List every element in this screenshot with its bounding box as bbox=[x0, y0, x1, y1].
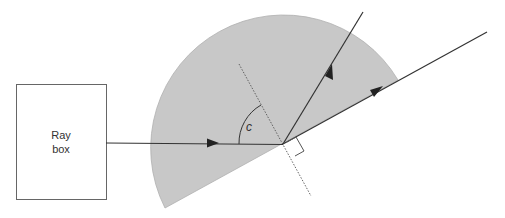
ray-box-label-line2: box bbox=[52, 143, 70, 155]
refraction-diagram: Ray box c bbox=[0, 0, 505, 218]
angle-label: c bbox=[246, 120, 252, 134]
ray-box-label-line1: Ray bbox=[51, 129, 71, 141]
ray-box bbox=[17, 85, 107, 200]
semicircular-block bbox=[151, 15, 398, 208]
